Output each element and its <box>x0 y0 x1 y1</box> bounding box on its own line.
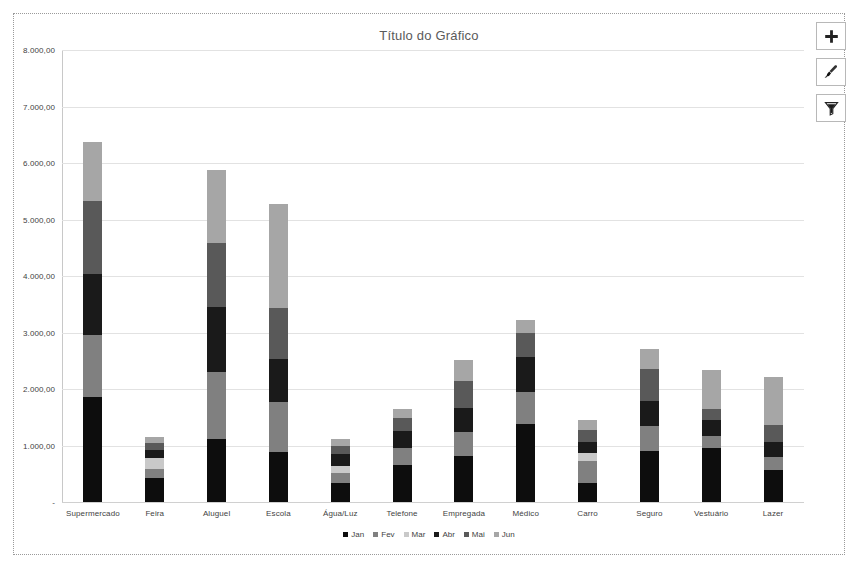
bar-stack[interactable] <box>331 439 350 502</box>
chart-object[interactable]: Título do Gráfico -1.000,002.000,003.000… <box>13 13 845 555</box>
bar-segment[interactable] <box>764 457 783 470</box>
bar-segment[interactable] <box>702 420 721 437</box>
bar-segment[interactable] <box>393 431 412 448</box>
bar-segment[interactable] <box>516 320 535 334</box>
legend-swatch <box>404 532 409 537</box>
bar-segment[interactable] <box>145 443 164 450</box>
bar-stack[interactable] <box>764 377 783 502</box>
bar-segment[interactable] <box>331 439 350 446</box>
bar-segment[interactable] <box>702 409 721 419</box>
legend-item[interactable]: Jan <box>343 530 364 539</box>
bar-segment[interactable] <box>764 425 783 442</box>
chart-styles-button[interactable] <box>816 58 846 86</box>
bar-segment[interactable] <box>454 360 473 381</box>
bar-segment[interactable] <box>207 243 226 307</box>
bar-segment[interactable] <box>640 349 659 369</box>
category-axis-tick: Carro <box>577 509 598 518</box>
bar-segment[interactable] <box>269 402 288 452</box>
bar-segment[interactable] <box>578 420 597 430</box>
bar-segment[interactable] <box>83 142 102 201</box>
bar-segment[interactable] <box>331 454 350 466</box>
bar-segment[interactable] <box>331 483 350 502</box>
bar-stack[interactable] <box>640 349 659 502</box>
category-axis-tick: Lazer <box>763 509 784 518</box>
chart-title[interactable]: Título do Gráfico <box>14 28 844 43</box>
category-axis-tick: Telefone <box>387 509 418 518</box>
bar-segment[interactable] <box>207 439 226 502</box>
legend-item[interactable]: Fev <box>373 530 394 539</box>
bar-segment[interactable] <box>269 308 288 359</box>
bar-stack[interactable] <box>145 437 164 502</box>
bar-segment[interactable] <box>331 466 350 473</box>
bar-segment[interactable] <box>393 448 412 466</box>
bar-segment[interactable] <box>454 408 473 432</box>
bar-stack[interactable] <box>83 142 102 502</box>
legend-label: Mar <box>412 530 426 539</box>
value-axis-tick: 3.000,00 <box>23 328 55 337</box>
chart-quick-buttons[interactable] <box>816 22 846 122</box>
bar-segment[interactable] <box>764 377 783 425</box>
chart-elements-button[interactable] <box>816 22 846 50</box>
bar-segment[interactable] <box>578 461 597 483</box>
bar-segment[interactable] <box>454 432 473 456</box>
funnel-icon <box>824 101 839 116</box>
bar-segment[interactable] <box>764 442 783 458</box>
bar-segment[interactable] <box>516 424 535 502</box>
bar-segment[interactable] <box>702 436 721 448</box>
chart-legend[interactable]: JanFevMarAbrMaiJun <box>14 530 844 539</box>
legend-swatch <box>373 532 378 537</box>
bar-segment[interactable] <box>578 442 597 453</box>
bar-stack[interactable] <box>578 420 597 502</box>
category-axis-tick: Aluguel <box>203 509 230 518</box>
bar-segment[interactable] <box>454 381 473 408</box>
bar-stack[interactable] <box>702 370 721 502</box>
bar-stack[interactable] <box>207 170 226 502</box>
bar-segment[interactable] <box>393 409 412 417</box>
bar-segment[interactable] <box>393 418 412 431</box>
bar-series-group[interactable] <box>62 50 804 502</box>
bar-stack[interactable] <box>269 204 288 502</box>
bar-segment[interactable] <box>578 430 597 442</box>
bar-segment[interactable] <box>269 204 288 309</box>
bar-segment[interactable] <box>640 426 659 451</box>
bar-segment[interactable] <box>207 170 226 243</box>
bar-segment[interactable] <box>702 370 721 409</box>
bar-segment[interactable] <box>516 392 535 424</box>
bar-segment[interactable] <box>640 401 659 425</box>
bar-segment[interactable] <box>145 458 164 469</box>
bar-segment[interactable] <box>640 369 659 401</box>
legend-item[interactable]: Mai <box>464 530 485 539</box>
bar-stack[interactable] <box>393 409 412 502</box>
bar-segment[interactable] <box>207 307 226 372</box>
bar-segment[interactable] <box>640 451 659 502</box>
bar-segment[interactable] <box>83 335 102 397</box>
bar-segment[interactable] <box>764 470 783 502</box>
bar-segment[interactable] <box>516 333 535 357</box>
value-axis-tick: 5.000,00 <box>23 215 55 224</box>
bar-segment[interactable] <box>578 483 597 502</box>
bar-segment[interactable] <box>516 357 535 392</box>
bar-segment[interactable] <box>83 274 102 336</box>
bar-segment[interactable] <box>269 359 288 402</box>
legend-item[interactable]: Jun <box>494 530 515 539</box>
bar-segment[interactable] <box>331 446 350 454</box>
bar-segment[interactable] <box>393 465 412 502</box>
bar-segment[interactable] <box>454 456 473 502</box>
bar-segment[interactable] <box>702 448 721 502</box>
bar-segment[interactable] <box>145 450 164 458</box>
chart-filters-button[interactable] <box>816 94 846 122</box>
bar-segment[interactable] <box>207 372 226 439</box>
bar-segment[interactable] <box>83 201 102 273</box>
plot-area[interactable]: -1.000,002.000,003.000,004.000,005.000,0… <box>62 50 804 502</box>
legend-item[interactable]: Abr <box>434 530 454 539</box>
bar-stack[interactable] <box>454 360 473 502</box>
bar-segment[interactable] <box>145 478 164 502</box>
bar-segment[interactable] <box>269 452 288 502</box>
legend-item[interactable]: Mar <box>404 530 426 539</box>
bar-stack[interactable] <box>516 320 535 502</box>
bar-segment[interactable] <box>331 473 350 483</box>
bar-segment[interactable] <box>145 469 164 477</box>
bar-segment[interactable] <box>83 397 102 502</box>
bar-segment[interactable] <box>578 453 597 461</box>
legend-label: Jan <box>351 530 364 539</box>
